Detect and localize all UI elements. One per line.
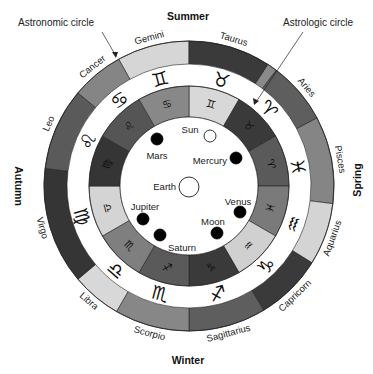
moon-icon — [211, 227, 223, 239]
jupiter-icon — [137, 213, 149, 225]
sun-label: Sun — [182, 124, 199, 135]
zodiac-diagram: GeminiTaurusAriesPiscesAquariusCapricorn… — [0, 0, 373, 374]
sun-icon — [204, 130, 216, 142]
zodiac-glyph-icon: ♐ — [207, 280, 229, 306]
arrow-head-icon — [112, 52, 118, 58]
jupiter-label: Jupiter — [131, 201, 160, 212]
mars-icon — [151, 133, 163, 145]
earth-label: Earth — [153, 181, 176, 192]
mercury-icon — [230, 152, 242, 164]
earth-icon — [179, 177, 199, 197]
saturn-label: Saturn — [168, 242, 196, 253]
mercury-label: Mercury — [193, 155, 228, 166]
venus-label: Venus — [225, 196, 252, 207]
astrologic-circle-callout: Astrologic circle — [283, 17, 353, 28]
zodiac-glyph-icon: ♊ — [149, 66, 171, 92]
season-winter: Winter — [172, 354, 205, 366]
season-summer: Summer — [167, 10, 209, 22]
zodiac-glyph-icon: ♏ — [149, 280, 171, 306]
saturn-icon — [154, 229, 166, 241]
astronomic-label-pisces: Pisces — [333, 145, 349, 175]
mars-label: Mars — [146, 150, 167, 161]
astronomic-label-leo: Leo — [40, 114, 56, 133]
season-autumn: Autumn — [13, 166, 25, 206]
moon-label: Moon — [201, 216, 225, 227]
zodiac-glyph-icon: ♓ — [286, 156, 311, 177]
venus-icon — [234, 206, 246, 218]
astronomic-circle-callout: Astronomic circle — [18, 17, 95, 28]
season-spring: Spring — [351, 163, 363, 196]
